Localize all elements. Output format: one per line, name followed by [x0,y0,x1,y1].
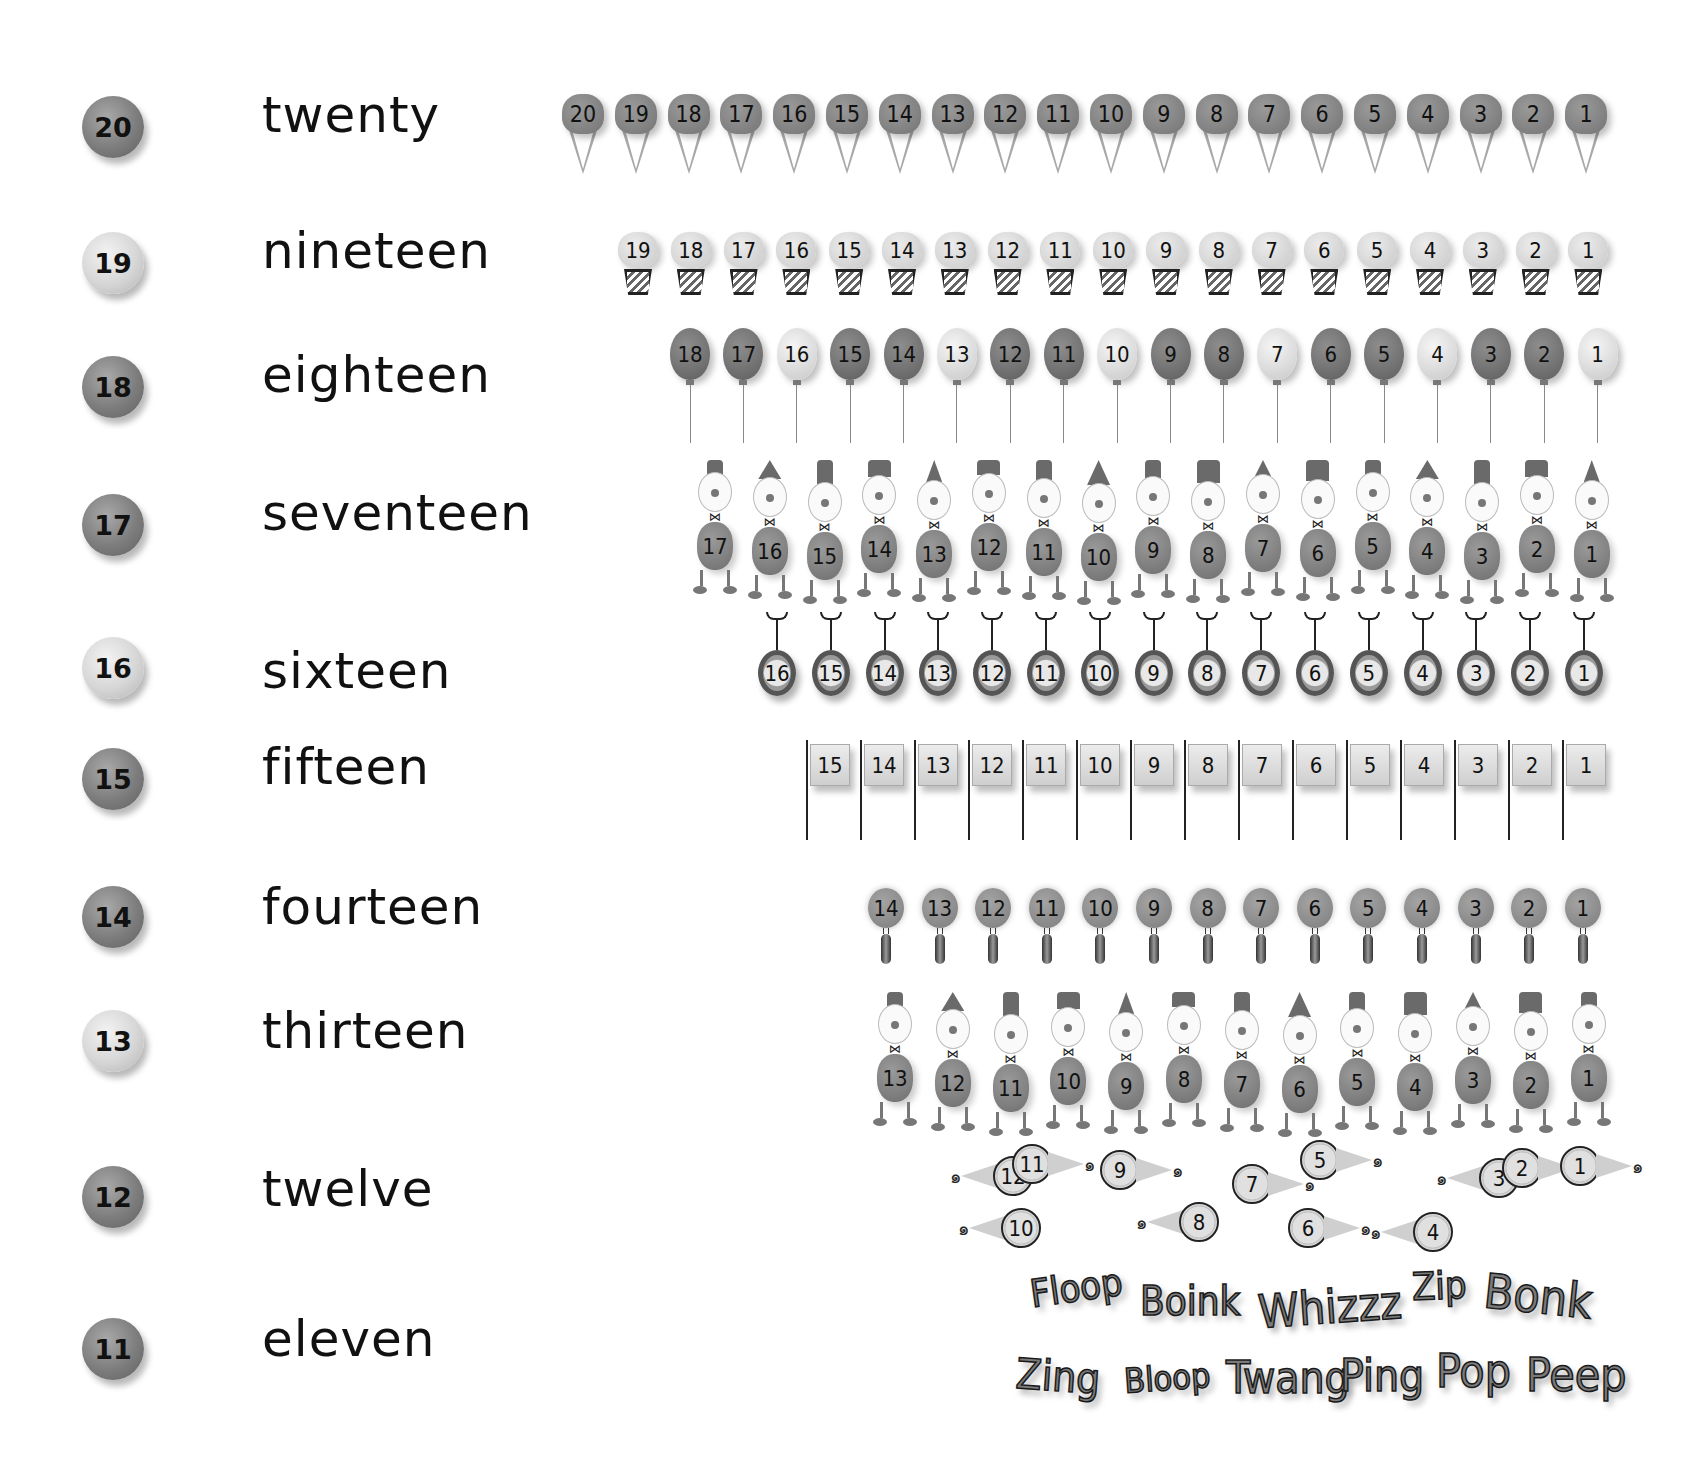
lollipop-icon: 5 [1350,888,1386,964]
horn-body [1381,1220,1417,1244]
clown-icon: ⋈11 [1017,460,1071,605]
clown-icon: ⋈2 [1504,992,1558,1137]
pot-base [1099,269,1127,295]
clown-hat [1234,992,1250,1012]
unicycle-post [1153,620,1155,650]
flag-pole [1400,740,1402,840]
unicycle-post [1422,620,1424,650]
cone-wafer [1572,130,1600,174]
unicycle-icon: 5 [1350,612,1388,696]
ice-cream-cone-icon: 20 [562,94,604,174]
clown-feet [1162,1119,1206,1127]
unicycle-icon: 4 [1404,612,1442,696]
clown-icon: ⋈6 [1291,460,1345,605]
horn-body [1147,1210,1183,1234]
lollipop-icon: 11 [1029,888,1065,964]
clown-hat [1519,992,1542,1013]
number-ball-15: 15 [82,748,144,810]
bow-tie-icon: ⋈ [709,512,721,522]
cone-number: 2 [1512,94,1554,134]
balloon-icon: 11 [1044,328,1084,443]
sound-word-set: FloopBoinkWhizzzZipBonkZingBloopTwangPin… [0,1266,1686,1426]
swirl-icon: ๑ [1084,1150,1095,1179]
clown-icon: ⋈8 [1181,460,1235,605]
flower-number: 3 [1463,232,1503,268]
balloon-number: 8 [1204,328,1244,380]
balloon-number: 6 [1311,328,1351,380]
bow-tie-icon: ⋈ [1476,522,1488,532]
cone-number: 8 [1196,94,1238,134]
clown-number: 8 [1190,531,1226,579]
clown-head [1410,477,1444,517]
flag-icon: 13 [914,740,968,840]
unicycle-icon: 12 [973,612,1011,696]
bow-tie-icon: ⋈ [1147,516,1159,526]
clown-number: 3 [1455,1056,1491,1104]
sound-effect-word: Whizzz [1256,1275,1403,1339]
balloon-number: 18 [670,328,710,380]
cone-wafer [1467,130,1495,174]
cone-number: 3 [1460,94,1502,134]
clown-feet [1241,588,1285,596]
bow-tie-icon: ⋈ [1367,512,1379,522]
bow-tie-icon: ⋈ [1202,521,1214,531]
cone-wafer [991,130,1019,174]
flower-pot-set: 19181716151413121110987654321 [618,232,1608,295]
clown-feet [1393,1127,1437,1135]
clown-head [994,1014,1028,1054]
unicycle-seat [1089,612,1111,620]
unicycle-number: 13 [919,650,957,696]
bow-tie-icon: ⋈ [1005,1054,1017,1064]
clown-feet [1131,590,1175,598]
party-horn-icon: ๑10 [958,1208,1041,1248]
clown-feet [1405,591,1449,599]
clown-icon: ⋈7 [1236,460,1290,605]
clown-icon: ⋈3 [1455,460,1509,605]
flag-set: 151413121110987654321 [806,740,1616,840]
clown-icon: ⋈13 [907,460,961,605]
lollipop-handle [1042,934,1052,964]
lollipop-handle [1417,934,1427,964]
swirl-icon: ๑ [1372,1146,1383,1175]
clown-head [1340,1008,1374,1048]
unicycle-post [884,620,886,650]
flag-icon: 2 [1508,740,1562,840]
lollipop-icon: 1 [1565,888,1601,964]
bow-tie-icon: ⋈ [1531,515,1543,525]
cone-number: 11 [1037,94,1079,134]
clown-icon: ⋈8 [1157,992,1211,1137]
pot-base [888,269,916,295]
horn-body [969,1216,1005,1240]
clown-legs [1285,1113,1315,1129]
ice-cream-cone-icon: 14 [879,94,921,174]
clown-head [917,480,951,520]
clown-icon: ⋈13 [868,992,922,1137]
flag-number: 2 [1512,744,1552,786]
lollipop-number: 14 [868,888,904,928]
balloon-icon: 17 [723,328,763,443]
clown-number: 2 [1513,1061,1549,1109]
balloon-number: 12 [990,328,1030,380]
horn-number: 6 [1288,1208,1328,1248]
horn-body [1324,1216,1360,1240]
swirl-icon: ๑ [958,1214,969,1243]
lollipop-number: 13 [922,888,958,928]
row-eleven: 11 eleven FloopBoinkWhizzzZipBonkZingBlo… [0,1266,1686,1426]
lollipop-handle [1149,934,1159,964]
flower-number: 4 [1410,232,1450,268]
unicycle-icon: 7 [1242,612,1280,696]
bow-tie-icon: ⋈ [1294,1055,1306,1065]
number-ball-17: 17 [82,494,144,556]
balloon-number: 7 [1257,328,1297,380]
balloon-string [956,385,957,443]
clown-icon: ⋈12 [926,992,980,1137]
ice-cream-cone-icon: 8 [1196,94,1238,174]
clown-head [1082,483,1116,523]
clown-feet [1278,1129,1322,1137]
clown-head [1465,482,1499,522]
row-eighteen: 18 eighteen 181716151413121110987654321 [0,322,1686,442]
cone-number: 1 [1565,94,1607,134]
unicycle-icon: 6 [1296,612,1334,696]
balloon-icon: 15 [830,328,870,443]
bow-tie-icon: ⋈ [1583,1044,1595,1054]
